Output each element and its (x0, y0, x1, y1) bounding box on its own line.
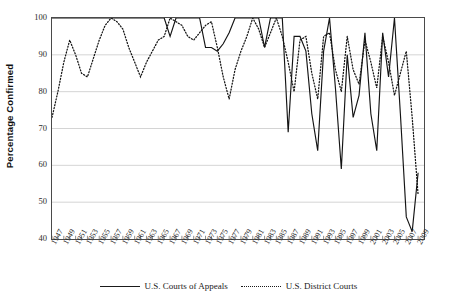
legend-item-courts-of-appeals: U.S. Courts of Appeals (100, 281, 228, 291)
y-tick-label: 50 (23, 197, 47, 206)
legend-item-district-courts: U.S. District Courts (241, 281, 358, 291)
plot-area (51, 17, 425, 240)
y-tick-label: 80 (23, 87, 47, 96)
legend-label: U.S. Courts of Appeals (145, 281, 228, 291)
dotted-line-swatch-icon (241, 286, 281, 287)
y-tick-label: 60 (23, 160, 47, 169)
y-tick-label: 40 (23, 234, 47, 243)
y-axis-tick-labels: 405060708090100 (20, 0, 47, 257)
chart-container: Percentage Confirmed 405060708090100 194… (0, 0, 457, 297)
y-axis-title: Percentage Confirmed (4, 36, 18, 196)
y-tick-label: 100 (23, 13, 47, 22)
legend-label: U.S. District Courts (286, 281, 358, 291)
plot-lines (52, 18, 424, 239)
solid-line-swatch-icon (100, 286, 140, 287)
chart-legend: U.S. Courts of Appeals U.S. District Cou… (0, 278, 457, 294)
y-tick-label: 70 (23, 124, 47, 133)
y-tick-label: 90 (23, 50, 47, 59)
